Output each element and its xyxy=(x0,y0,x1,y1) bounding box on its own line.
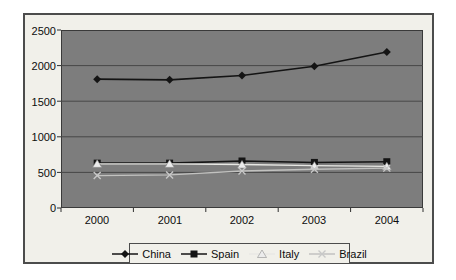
legend-marker-svg xyxy=(249,249,275,259)
legend-marker-svg xyxy=(309,249,335,259)
y-axis-tick-label: 2000 xyxy=(18,60,56,72)
y-axis: 2500 2000 1500 1000 500 0 xyxy=(18,0,56,280)
y-axis-tick-label: 1500 xyxy=(18,96,56,108)
y-axis-tick-label: 1000 xyxy=(18,131,56,143)
chart-legend: China Spain Italy Brazil xyxy=(129,243,350,264)
x-axis-tick-label: 2000 xyxy=(75,214,119,226)
legend-item-china: China xyxy=(112,248,171,260)
legend-label: Brazil xyxy=(339,248,367,260)
x-axis-tick-label: 2002 xyxy=(220,214,264,226)
x-marker-icon xyxy=(309,249,335,259)
series-marker-square xyxy=(190,250,197,257)
x-axis-tick-label: 2004 xyxy=(365,214,409,226)
x-axis-tick-label: 2001 xyxy=(148,214,192,226)
legend-label: China xyxy=(142,248,171,260)
y-axis-tick-label: 2500 xyxy=(18,25,56,37)
y-axis-tick-label: 0 xyxy=(18,202,56,214)
diamond-marker-icon xyxy=(112,249,138,259)
plot-area xyxy=(61,30,423,208)
legend-item-italy: Italy xyxy=(249,248,299,260)
chart-figure: 2500 2000 1500 1000 500 0 2000 2001 2002… xyxy=(0,0,456,280)
legend-label: Italy xyxy=(279,248,299,260)
y-axis-tick-label: 500 xyxy=(18,167,56,179)
series-marker-diamond xyxy=(121,250,129,258)
legend-item-spain: Spain xyxy=(181,248,239,260)
x-axis-tick-label: 2003 xyxy=(292,214,336,226)
legend-label: Spain xyxy=(211,248,239,260)
legend-marker-svg xyxy=(112,249,138,259)
square-marker-icon xyxy=(181,249,207,259)
legend-marker-svg xyxy=(181,249,207,259)
legend-item-brazil: Brazil xyxy=(309,248,367,260)
triangle-marker-icon xyxy=(249,249,275,259)
